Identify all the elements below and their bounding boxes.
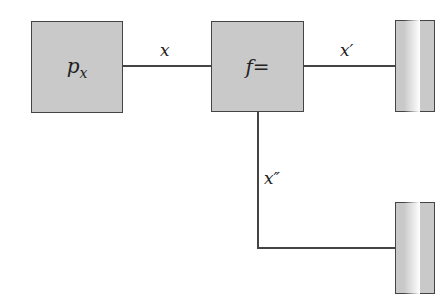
edge-f-out2-horizontal	[257, 247, 396, 249]
edge-label-x-prime: x′	[340, 40, 353, 60]
edge-px-f	[122, 65, 212, 67]
right-edge-fade	[404, 0, 420, 303]
node-f-label: f=	[245, 55, 269, 79]
edge-label-x: x	[160, 40, 170, 60]
edge-f-out1	[303, 65, 396, 67]
node-f: f=	[211, 21, 304, 112]
node-px: px	[31, 21, 123, 113]
edge-f-out2-vertical	[257, 112, 259, 249]
node-px-label: px	[67, 54, 88, 81]
edge-label-x-double-prime: x″	[264, 168, 280, 188]
